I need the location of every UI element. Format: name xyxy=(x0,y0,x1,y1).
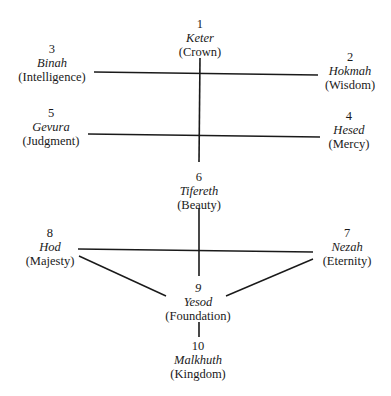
node-hod: 8 Hod (Majesty) xyxy=(26,226,75,268)
node-number: 9 xyxy=(165,281,230,295)
node-english-name: (Wisdom) xyxy=(325,78,375,92)
node-number: 5 xyxy=(23,106,80,120)
node-number: 8 xyxy=(26,226,75,240)
edge-nezah-yesod xyxy=(226,259,313,296)
node-keter: 1 Keter (Crown) xyxy=(179,17,221,59)
node-hebrew-name: Hod xyxy=(26,240,75,254)
node-hebrew-name: Hokmah xyxy=(325,64,375,78)
node-tifereth: 6 Tifereth (Beauty) xyxy=(177,170,221,212)
node-hebrew-name: Tifereth xyxy=(177,184,221,198)
node-gevura: 5 Gevura (Judgment) xyxy=(23,106,80,148)
node-english-name: (Mercy) xyxy=(329,137,370,151)
edge-gevura-hesed xyxy=(88,134,320,137)
node-hebrew-name: Binah xyxy=(18,56,85,70)
node-hebrew-name: Keter xyxy=(179,31,221,45)
node-english-name: (Kingdom) xyxy=(170,367,226,381)
node-number: 4 xyxy=(329,109,370,123)
node-hebrew-name: Gevura xyxy=(23,120,80,134)
node-malkhuth: 10 Malkhuth (Kingdom) xyxy=(170,339,226,381)
node-english-name: (Judgment) xyxy=(23,134,80,148)
node-english-name: (Intelligence) xyxy=(18,70,85,84)
node-number: 7 xyxy=(323,226,372,240)
node-number: 6 xyxy=(177,170,221,184)
node-hebrew-name: Nezah xyxy=(323,240,372,254)
edge-hod-nezah xyxy=(78,249,313,252)
node-number: 2 xyxy=(325,50,375,64)
node-hesed: 4 Hesed (Mercy) xyxy=(329,109,370,151)
node-yesod: 9 Yesod (Foundation) xyxy=(165,281,230,323)
node-nezah: 7 Nezah (Eternity) xyxy=(323,226,372,268)
node-english-name: (Eternity) xyxy=(323,254,372,268)
node-english-name: (Majesty) xyxy=(26,254,75,268)
node-hebrew-name: Malkhuth xyxy=(170,353,226,367)
node-binah: 3 Binah (Intelligence) xyxy=(18,42,85,84)
node-hokmah: 2 Hokmah (Wisdom) xyxy=(325,50,375,92)
node-english-name: (Crown) xyxy=(179,45,221,59)
node-hebrew-name: Yesod xyxy=(165,295,230,309)
node-english-name: (Beauty) xyxy=(177,198,221,212)
edge-binah-hokmah xyxy=(94,72,318,75)
node-number: 3 xyxy=(18,42,85,56)
edge-hod-yesod xyxy=(79,256,166,296)
node-english-name: (Foundation) xyxy=(165,309,230,323)
node-number: 10 xyxy=(170,339,226,353)
node-number: 1 xyxy=(179,17,221,31)
node-hebrew-name: Hesed xyxy=(329,123,370,137)
